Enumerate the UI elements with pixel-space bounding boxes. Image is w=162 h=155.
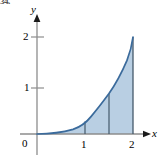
x-tick-label-1: 1 [81, 139, 87, 150]
y-tick-label-2: 2 [23, 31, 29, 42]
x-axis-label: x [152, 128, 157, 139]
area-under-curve-plot [0, 0, 162, 155]
y-axis-arrowhead-icon [34, 14, 41, 22]
y-tick-label-1: 1 [24, 82, 30, 93]
x-tick-label-2: 2 [129, 139, 135, 150]
y-axis-label: y [31, 4, 36, 15]
shaded-area-fill-base [37, 37, 133, 134]
x-tick-label-0: 0 [22, 138, 28, 149]
figure-container: 34. y x 2 1 0 1 2 [0, 0, 162, 155]
x-axis-arrowhead-icon [143, 131, 151, 137]
